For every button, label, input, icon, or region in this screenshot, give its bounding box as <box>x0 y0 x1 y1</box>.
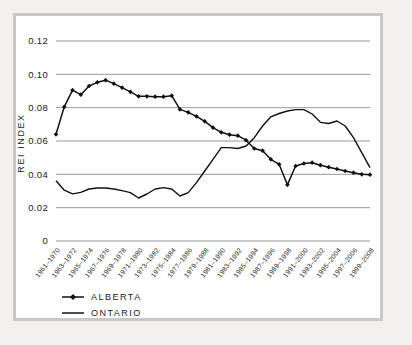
data-point-marker <box>103 78 108 83</box>
series-line-alberta <box>56 80 370 185</box>
data-point-marker <box>153 94 158 99</box>
y-tick-label: 0.10 <box>28 69 48 80</box>
data-point-marker <box>368 172 373 177</box>
legend-marker-diamond <box>70 294 76 300</box>
data-point-marker <box>293 164 298 169</box>
y-gridlines <box>56 41 370 241</box>
data-point-marker <box>359 172 364 177</box>
data-point-marker <box>95 80 100 85</box>
series-layer <box>54 78 373 198</box>
chart-plot: 00.020.040.060.080.100.12 1961–19701963–… <box>0 0 412 345</box>
data-point-marker <box>302 161 307 166</box>
chart-figure: 00.020.040.060.080.100.12 1961–19701963–… <box>0 0 412 345</box>
data-point-marker <box>227 132 232 137</box>
y-tick-label: 0.04 <box>28 169 48 180</box>
legend-label-alberta: ALBERTA <box>91 292 142 302</box>
y-tick-label: 0.08 <box>28 102 48 113</box>
data-point-marker <box>145 94 150 99</box>
data-point-marker <box>343 169 348 174</box>
data-point-marker <box>335 167 340 172</box>
legend-label-ontario: ONTARIO <box>91 308 142 318</box>
data-point-marker <box>161 94 166 99</box>
y-axis-title: REI INDEX <box>16 113 26 172</box>
data-point-marker <box>310 160 315 165</box>
chart-legend: ALBERTAONTARIO <box>62 292 142 318</box>
data-point-marker <box>285 183 290 188</box>
y-tick-label: 0.06 <box>28 135 48 146</box>
y-tick-label: 0 <box>42 235 48 246</box>
data-point-marker <box>186 110 191 115</box>
y-tick-label: 0.02 <box>28 202 48 213</box>
x-tick-labels: 1961–19701963–19721965–19741967–19761969… <box>34 246 376 279</box>
data-point-marker <box>326 165 331 170</box>
y-tick-labels: 00.020.040.060.080.100.12 <box>28 35 48 246</box>
data-point-marker <box>318 163 323 168</box>
y-tick-label: 0.12 <box>28 35 48 46</box>
data-point-marker <box>54 132 59 137</box>
series-line-ontario <box>56 110 370 198</box>
